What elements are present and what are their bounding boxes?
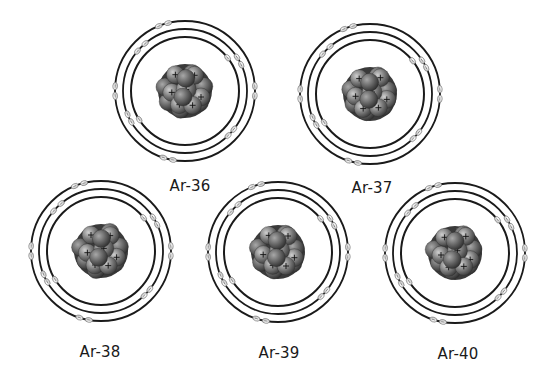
nucleus bbox=[342, 67, 397, 121]
neutron bbox=[267, 249, 285, 267]
label-ar-38: Ar-38 bbox=[80, 343, 121, 361]
label-ar-36: Ar-36 bbox=[170, 177, 211, 195]
electron bbox=[169, 157, 177, 163]
neutron bbox=[92, 230, 110, 248]
label-ar-40: Ar-40 bbox=[438, 345, 479, 363]
atoms-layer bbox=[29, 20, 528, 325]
label-ar-37: Ar-37 bbox=[352, 179, 393, 197]
neutron bbox=[174, 88, 192, 106]
electron bbox=[257, 181, 265, 187]
electron bbox=[437, 85, 442, 93]
electron bbox=[40, 270, 47, 278]
electron bbox=[113, 92, 118, 100]
electron bbox=[237, 61, 244, 70]
electron bbox=[206, 253, 211, 261]
electron bbox=[164, 20, 172, 26]
electron bbox=[437, 95, 442, 103]
electron bbox=[344, 157, 352, 164]
electron bbox=[113, 82, 118, 90]
electron bbox=[29, 252, 34, 260]
label-ar-39: Ar-39 bbox=[259, 344, 300, 362]
electron bbox=[349, 23, 357, 29]
neutron bbox=[268, 232, 286, 250]
electron bbox=[394, 272, 401, 280]
electron bbox=[248, 184, 256, 191]
neutron bbox=[90, 248, 108, 266]
electron bbox=[85, 317, 93, 323]
neutron bbox=[360, 90, 378, 108]
atom-ar-39 bbox=[206, 181, 351, 324]
electron bbox=[383, 244, 388, 252]
electron bbox=[439, 319, 447, 325]
neutron bbox=[177, 69, 195, 87]
electron bbox=[345, 253, 350, 261]
electron bbox=[309, 113, 316, 121]
neutron bbox=[446, 232, 464, 250]
electron bbox=[155, 23, 163, 30]
electron bbox=[425, 185, 433, 192]
electron bbox=[522, 254, 527, 262]
electron bbox=[340, 26, 348, 33]
electron bbox=[252, 315, 260, 322]
electron bbox=[252, 82, 257, 90]
electron bbox=[429, 316, 437, 323]
atom-ar-36 bbox=[113, 20, 258, 163]
electron bbox=[422, 64, 429, 73]
electron bbox=[345, 243, 350, 251]
electron bbox=[298, 95, 303, 103]
electron bbox=[168, 242, 173, 250]
electron bbox=[507, 223, 514, 232]
neutron bbox=[361, 73, 379, 91]
atom-ar-38 bbox=[29, 180, 174, 323]
nucleus bbox=[249, 225, 305, 279]
electron bbox=[206, 243, 211, 251]
isotope-diagram: Ar-36 Ar-37 Ar-38 Ar-39 Ar-40 bbox=[0, 0, 548, 383]
neutron bbox=[443, 251, 461, 269]
nucleus bbox=[72, 223, 129, 278]
atom-ar-37 bbox=[298, 23, 443, 166]
electron bbox=[71, 183, 79, 190]
electron bbox=[75, 314, 83, 321]
electron bbox=[168, 252, 173, 260]
electron bbox=[124, 110, 131, 118]
electron bbox=[80, 180, 88, 186]
nucleus bbox=[425, 226, 482, 280]
electron bbox=[383, 254, 388, 262]
diagram-canvas bbox=[0, 0, 548, 383]
electron bbox=[252, 92, 257, 100]
electron bbox=[159, 154, 167, 161]
electron bbox=[298, 85, 303, 93]
electron bbox=[330, 222, 337, 231]
electron bbox=[522, 244, 527, 252]
electron bbox=[29, 242, 34, 250]
atom-ar-40 bbox=[383, 182, 528, 325]
electron bbox=[153, 221, 160, 230]
electron bbox=[354, 160, 362, 166]
electron bbox=[262, 318, 270, 324]
nucleus bbox=[156, 64, 213, 118]
electron bbox=[217, 271, 224, 279]
electron bbox=[434, 182, 442, 188]
